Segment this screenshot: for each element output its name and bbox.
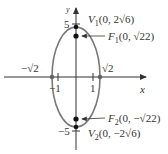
f1-label: F1(0, √22) — [107, 30, 154, 45]
v1-label: V1(0, 2√6) — [88, 13, 134, 28]
tick-label-y-5: 5 — [64, 18, 70, 30]
y-axis-label: y — [65, 5, 70, 14]
intercept-point-x-pos — [98, 75, 103, 80]
focus-point-f2 — [73, 116, 78, 121]
intercept-label-x-neg: −√2 — [21, 62, 39, 74]
ellipse-diagram: y x 5 −5 1 −1 √2 −√2 V1(0, 2√6) F1(0, √2… — [0, 0, 168, 154]
tick-label-x-1: 1 — [90, 82, 96, 94]
f2-leader-line — [82, 118, 105, 119]
vertex-point-v1 — [74, 25, 79, 30]
intercept-point-x-neg — [50, 75, 55, 80]
focus-point-f1 — [73, 33, 78, 38]
vertex-point-v2 — [74, 125, 79, 130]
x-axis-label: x — [139, 83, 145, 95]
v2-label: V2(0, −2√6) — [88, 127, 141, 142]
tick-label-x-neg1: −1 — [49, 82, 61, 94]
f2-label: F2(0, −√22) — [107, 112, 161, 127]
tick-label-y-neg5: −5 — [58, 125, 70, 137]
intercept-label-x-pos: √2 — [102, 62, 114, 74]
